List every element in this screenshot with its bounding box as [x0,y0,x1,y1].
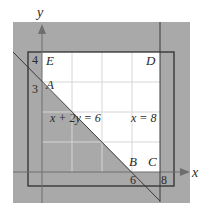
x-tick-8: 8 [161,173,167,187]
point-label-D: D [145,53,156,68]
y-tick-4: 4 [32,53,38,67]
y-axis-label: y [35,5,44,20]
point-label-A: A [45,77,54,92]
point-label-C: C [148,154,157,169]
point-label-E: E [45,53,54,68]
label-x-eq-8: x = 8 [130,111,156,125]
point-label-B: B [129,154,137,169]
label-x-plus-2y-eq-6: x + 2y = 6 [49,111,101,125]
x-axis-label: x [191,165,199,180]
y-tick-3: 3 [32,82,38,96]
feasible-region-diagram: y x 4 3 6 8 E D A B C x + 2y = 6 x = 8 [0,0,205,211]
x-tick-6: 6 [130,173,136,187]
